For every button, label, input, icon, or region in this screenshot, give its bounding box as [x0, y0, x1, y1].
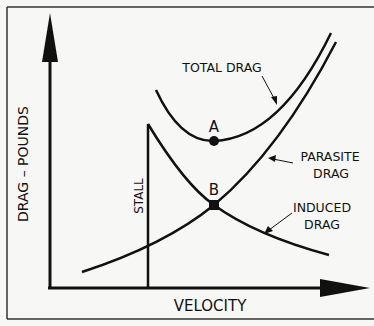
induced-drag-label-line2: DRAG: [304, 217, 340, 232]
parasite-drag-curve: [82, 42, 336, 272]
y-axis-arrow-icon: [42, 13, 58, 62]
x-axis-title: VELOCITY: [174, 297, 247, 315]
x-axis: [48, 279, 370, 297]
total-drag-curve: [156, 33, 331, 141]
induced-drag-label-line1: INDUCED: [293, 200, 351, 215]
drag-vs-velocity-diagram: TOTAL DRAG A B PARASITE DRAG INDUCED DRA…: [0, 0, 374, 326]
y-axis: [42, 13, 58, 289]
x-axis-arrow-icon: [320, 279, 370, 297]
parasite-drag-pointer: [268, 155, 293, 163]
point-b-label: B: [209, 181, 219, 199]
arrowhead-icon: [271, 96, 277, 105]
parasite-drag-label-line2: DRAG: [313, 166, 349, 181]
parasite-drag-label-line1: PARASITE: [300, 149, 359, 164]
point-a-marker: [209, 136, 219, 146]
point-a-label: A: [209, 118, 220, 136]
arrowhead-icon: [264, 226, 273, 234]
y-axis-title: DRAG – POUNDS: [15, 106, 31, 222]
induced-drag-pointer: [264, 213, 292, 234]
arrowhead-icon: [268, 155, 276, 162]
total-drag-label: TOTAL DRAG: [181, 60, 261, 75]
stall-label: STALL: [132, 178, 146, 214]
point-b-marker: [209, 200, 219, 210]
induced-drag-curve: [148, 124, 329, 255]
total-drag-pointer: [262, 76, 277, 105]
